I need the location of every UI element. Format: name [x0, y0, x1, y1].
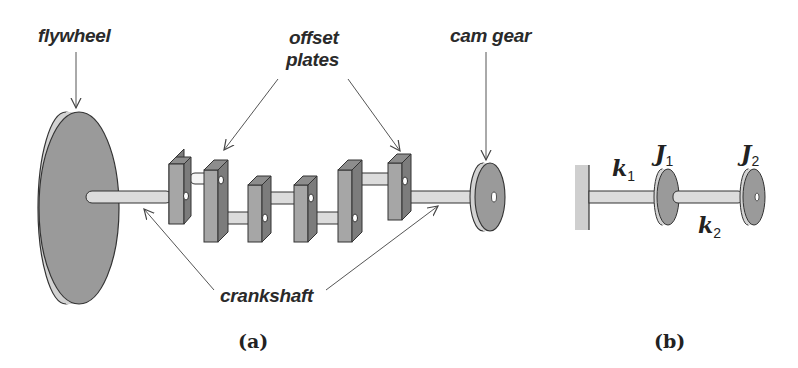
- symbol-k1: k1: [612, 155, 635, 184]
- flywheel: [38, 112, 119, 304]
- symbol-j2-sub: 2: [751, 153, 759, 169]
- symbol-k1-sub: 1: [627, 168, 635, 184]
- label-offset-plates-line2: plates: [286, 49, 339, 71]
- symbol-k2: k2: [698, 212, 721, 241]
- label-cam-gear: cam gear: [450, 25, 531, 47]
- symbol-j1-sub: 1: [665, 153, 673, 169]
- disk-j2: [740, 169, 765, 225]
- symbol-j1: J1: [655, 140, 673, 169]
- shaft-k1: [589, 191, 661, 203]
- symbol-k2-sub: 2: [713, 225, 721, 241]
- symbol-j2: J2: [741, 140, 759, 169]
- symbol-j2-base: J: [741, 140, 751, 166]
- fixed-wall: [575, 165, 589, 230]
- crankshaft: [86, 173, 476, 224]
- symbol-k1-base: k: [612, 155, 627, 181]
- caption-b: (b): [654, 330, 685, 352]
- label-flywheel: flywheel: [38, 25, 111, 47]
- symbol-j1-base: J: [655, 140, 665, 166]
- label-crankshaft: crankshaft: [220, 285, 313, 307]
- shaft-k2: [673, 191, 743, 203]
- caption-a: (a): [238, 330, 268, 352]
- diagram-canvas: [0, 0, 798, 368]
- cam-gear: [470, 163, 505, 231]
- label-arrows: [76, 52, 486, 290]
- symbol-k2-base: k: [698, 212, 713, 238]
- label-offset-plates-line1: offset: [289, 27, 339, 49]
